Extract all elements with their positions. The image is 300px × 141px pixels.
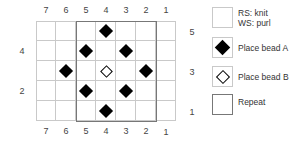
stitch-cell bbox=[116, 61, 136, 81]
bead-a-icon bbox=[96, 101, 116, 121]
stitch-cell bbox=[96, 41, 116, 61]
column-number: 7 bbox=[36, 5, 56, 15]
column-number: 4 bbox=[96, 5, 116, 15]
column-number: 2 bbox=[136, 5, 156, 15]
bead-a-icon bbox=[76, 41, 96, 61]
legend-label: RS: knit WS: purl bbox=[238, 8, 271, 28]
stitch-cell bbox=[136, 81, 156, 101]
stitch-cell bbox=[36, 41, 56, 61]
column-number: 5 bbox=[76, 126, 96, 136]
stitch-cell bbox=[116, 21, 136, 41]
bead-a-icon bbox=[116, 81, 136, 101]
legend-item-knit-purl: RS: knit WS: purl bbox=[212, 7, 271, 28]
stitch-cell bbox=[36, 61, 56, 81]
stitch-cell bbox=[136, 101, 156, 121]
blank-square-icon bbox=[212, 7, 233, 28]
column-number: 1 bbox=[156, 5, 176, 15]
stitch-cell bbox=[136, 41, 156, 61]
legend-label: Place bead B bbox=[238, 72, 289, 82]
row-number-right: 3 bbox=[182, 67, 202, 77]
stitch-cell bbox=[156, 101, 176, 121]
column-number: 3 bbox=[116, 5, 136, 15]
stitch-cell bbox=[56, 21, 76, 41]
bead-a-icon bbox=[76, 81, 96, 101]
stitch-cell bbox=[36, 101, 56, 121]
legend-item-bead-b: Place bead B bbox=[212, 66, 289, 87]
outline-diamond-icon bbox=[212, 66, 233, 87]
stitch-cell bbox=[36, 81, 56, 101]
stitch-cell bbox=[156, 81, 176, 101]
bead-b-icon bbox=[96, 61, 116, 81]
column-number: 6 bbox=[56, 126, 76, 136]
stitch-cell bbox=[76, 21, 96, 41]
legend-item-bead-a: Place bead A bbox=[212, 37, 288, 58]
column-number: 7 bbox=[36, 126, 56, 136]
stitch-cell bbox=[156, 41, 176, 61]
column-number: 6 bbox=[56, 5, 76, 15]
bead-a-icon bbox=[136, 61, 156, 81]
legend-label: Repeat bbox=[238, 97, 265, 107]
stitch-cell bbox=[56, 101, 76, 121]
stitch-cell bbox=[56, 41, 76, 61]
column-number: 1 bbox=[156, 127, 176, 137]
stitch-cell bbox=[116, 101, 136, 121]
stitch-cell bbox=[156, 61, 176, 81]
stitch-cell bbox=[136, 21, 156, 41]
column-number: 3 bbox=[116, 126, 136, 136]
row-number-left: 4 bbox=[12, 46, 32, 56]
stitch-cell bbox=[76, 101, 96, 121]
repeat-box-icon bbox=[212, 94, 233, 115]
stitch-cell bbox=[36, 21, 56, 41]
bead-a-icon bbox=[96, 21, 116, 41]
stitch-cell bbox=[156, 21, 176, 41]
column-number: 5 bbox=[76, 5, 96, 15]
stitch-cell bbox=[76, 61, 96, 81]
row-number-right: 1 bbox=[182, 107, 202, 117]
chart-grid bbox=[36, 21, 176, 121]
column-number: 2 bbox=[136, 126, 156, 136]
bead-a-icon bbox=[116, 41, 136, 61]
stitch-cell bbox=[96, 81, 116, 101]
legend-item-repeat: Repeat bbox=[212, 94, 265, 115]
column-number: 4 bbox=[96, 126, 116, 136]
row-number-left: 2 bbox=[12, 86, 32, 96]
bead-a-icon bbox=[56, 61, 76, 81]
stitch-cell bbox=[56, 81, 76, 101]
legend-label: Place bead A bbox=[238, 43, 288, 53]
row-number-right: 5 bbox=[182, 27, 202, 37]
filled-diamond-icon bbox=[212, 37, 233, 58]
